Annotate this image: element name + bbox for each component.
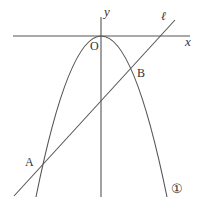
point-b-label: B xyxy=(137,66,145,80)
x-axis-label: x xyxy=(184,34,191,49)
y-axis-label: y xyxy=(102,4,110,19)
point-a-label: A xyxy=(25,155,34,169)
coordinate-diagram: y x O ℓ B A ① xyxy=(0,0,206,216)
line-l-label: ℓ xyxy=(161,9,166,23)
parabola-label: ① xyxy=(171,181,183,196)
origin-label: O xyxy=(90,39,99,53)
